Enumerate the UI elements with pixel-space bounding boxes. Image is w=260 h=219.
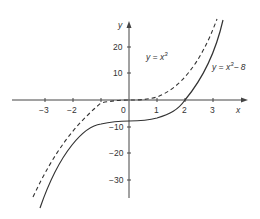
y-tick-label: −20 [109,148,124,158]
y-tick-label: 10 [113,68,123,78]
origin-label: 0 [121,105,126,115]
y-tick-label: −10 [109,122,124,132]
x-tick-label: −3 [39,105,49,115]
curve-label-x-cubed: y = x3 [145,51,168,62]
x-axis: −3 −2 0 1 2 3 x [12,98,248,116]
x-axis-label: x [235,105,241,115]
curve-label-x-cubed-minus-8: y = x3− 8 [211,61,246,72]
y-axis-arrow-icon [127,21,132,28]
y-axis-label: y [117,20,123,30]
x-tick-label: −2 [67,105,77,115]
x-tick-label: 3 [210,105,215,115]
y-tick-label: −30 [109,175,124,185]
x-tick-label: 1 [154,105,159,115]
y-tick-label: 20 [113,42,123,52]
x-tick-label: 2 [182,105,187,115]
cubic-graph: −3 −2 0 1 2 3 x 20 10 −10 −20 −30 y y = … [0,0,260,219]
x-axis-arrow-icon [241,98,248,103]
